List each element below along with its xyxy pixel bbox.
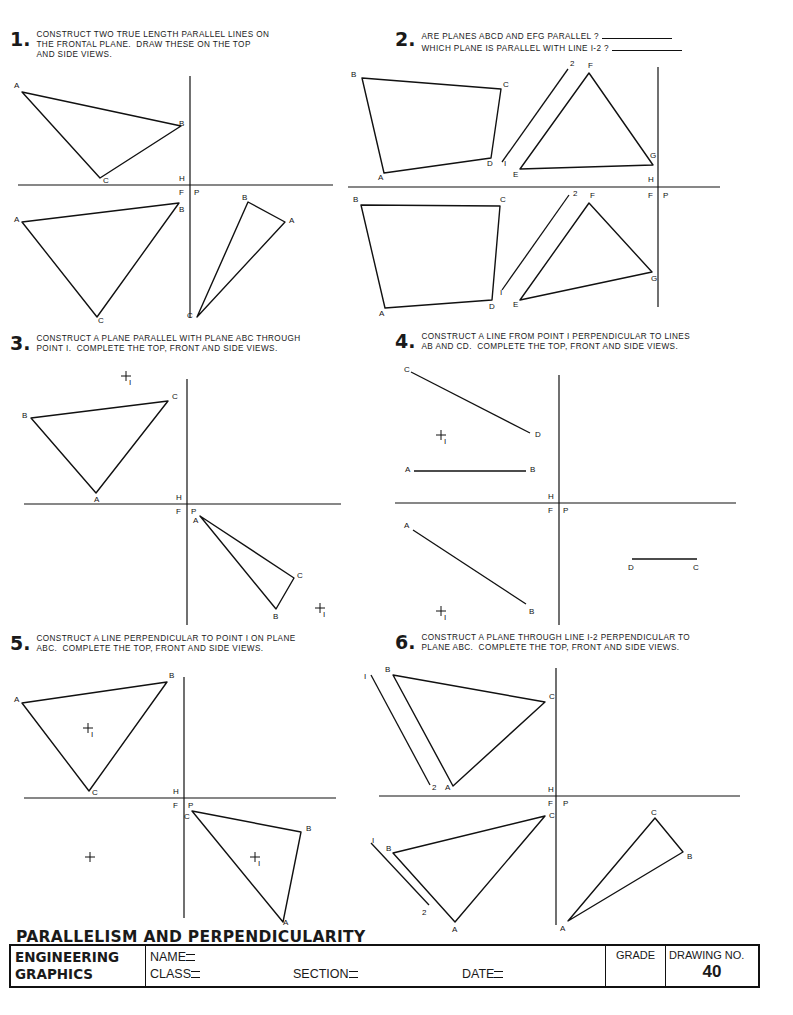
fold-label-f: F xyxy=(176,507,181,516)
point-label: I xyxy=(504,159,506,168)
point-label: I xyxy=(258,859,260,868)
plane-outline xyxy=(361,205,500,308)
point-label: I xyxy=(323,610,325,619)
problem-5-drawing: HFPABCCBAII xyxy=(14,671,336,927)
plane-outline xyxy=(22,92,181,178)
point-label: F xyxy=(648,191,653,200)
drawing-number-box: DRAWING NO. 40 xyxy=(666,946,758,986)
point-label: C xyxy=(98,316,104,325)
point-label: B xyxy=(22,411,27,420)
plane-outline xyxy=(393,675,545,786)
section-field[interactable]: SECTION xyxy=(293,966,358,983)
point-label: A xyxy=(289,216,295,225)
point-label: B xyxy=(529,607,534,616)
student-info: NAME CLASS SECTION DATE xyxy=(146,946,606,986)
plane-outline xyxy=(568,818,683,921)
point-label: P xyxy=(563,799,568,808)
point-label: C xyxy=(549,692,555,701)
point-label: I xyxy=(500,288,502,297)
point-label: C xyxy=(404,365,410,374)
drawing-canvas[interactable]: HFPABCABCBAC BCDAFGEBCDAFGEI2I2HFP HFPBC… xyxy=(0,0,793,1015)
point-label: B xyxy=(273,612,278,621)
point-label: 2 xyxy=(422,908,427,917)
point-label: G xyxy=(650,151,656,160)
fold-label-p: P xyxy=(191,507,196,516)
point-label: A xyxy=(14,81,20,90)
point-label: A xyxy=(378,173,384,182)
point-label: B xyxy=(530,465,535,474)
point-label: A xyxy=(193,516,199,525)
date-field[interactable]: DATE xyxy=(462,966,503,983)
point-label: I xyxy=(444,613,446,622)
point-label: C xyxy=(172,392,178,401)
worksheet: 1. CONSTRUCT TWO TRUE LENGTH PARALLEL LI… xyxy=(0,0,793,1015)
point-label: A xyxy=(445,783,451,792)
point-label: I xyxy=(129,378,131,387)
point-label: A xyxy=(94,495,100,504)
fold-label-h: H xyxy=(173,787,179,796)
point-label: C xyxy=(184,812,190,821)
point-label: A xyxy=(283,918,289,927)
point-label: H xyxy=(648,175,654,184)
problem-3-drawing: HFPBCAACBII xyxy=(22,371,341,625)
drawing-number: 40 xyxy=(669,962,755,982)
fold-label-f: F xyxy=(548,506,553,515)
point-label: A xyxy=(452,925,458,934)
line-segment xyxy=(411,372,530,433)
point-label: G xyxy=(651,274,657,283)
course-name: ENGINEERING GRAPHICS xyxy=(11,946,146,986)
plane-outline xyxy=(200,516,294,609)
plane-outline xyxy=(362,78,501,173)
point-label: C xyxy=(651,808,657,817)
plane-outline xyxy=(22,682,167,791)
plane-outline xyxy=(520,73,653,169)
point-label: D xyxy=(489,302,495,311)
fold-label-h: H xyxy=(179,174,185,183)
problem-4-drawing: HFPCDABABDCII xyxy=(395,365,736,625)
fold-label-h: H xyxy=(548,492,554,501)
point-label: B xyxy=(386,844,391,853)
point-label: C xyxy=(503,80,509,89)
point-label: H xyxy=(548,785,554,794)
point-label: A xyxy=(405,465,411,474)
plane-outline xyxy=(192,811,301,922)
point-label: D xyxy=(628,563,634,572)
line-segment xyxy=(371,843,429,905)
point-label: I xyxy=(364,672,366,681)
fold-label-p: P xyxy=(194,188,199,197)
point-label: B xyxy=(351,70,356,79)
point-label: F xyxy=(590,191,595,200)
point-label: A xyxy=(379,309,385,318)
point-label: I xyxy=(372,836,374,845)
point-label: A xyxy=(560,924,566,933)
point-label: 2 xyxy=(573,189,578,198)
point-label: C xyxy=(549,811,555,820)
point-label: B xyxy=(179,205,184,214)
point-label: E xyxy=(513,300,518,309)
fold-label-f: F xyxy=(179,188,184,197)
line-segment xyxy=(413,530,526,604)
class-field[interactable]: CLASS xyxy=(150,966,200,983)
point-label: E xyxy=(513,170,518,179)
point-label: B xyxy=(242,193,247,202)
problem-2-drawing: BCDAFGEBCDAFGEI2I2HFP xyxy=(348,59,720,318)
point-label: A xyxy=(14,215,20,224)
point-label: P xyxy=(663,191,668,200)
plane-outline xyxy=(520,203,652,300)
fold-label-p: P xyxy=(563,506,568,515)
fold-label-f: F xyxy=(173,801,178,810)
point-label: A xyxy=(404,521,410,530)
point-label: B xyxy=(306,824,311,833)
point-label: C xyxy=(693,563,699,572)
point-label: B xyxy=(169,671,174,680)
plane-outline xyxy=(393,816,545,922)
point-label: C xyxy=(187,311,193,320)
grade-box[interactable]: GRADE xyxy=(606,946,666,986)
point-label: F xyxy=(548,799,553,808)
plane-outline xyxy=(22,203,179,317)
plane-outline xyxy=(197,202,285,317)
point-label: C xyxy=(103,176,109,185)
name-field[interactable]: NAME xyxy=(150,949,195,966)
problem-1-drawing: HFPABCABCBAC xyxy=(14,76,333,325)
point-label: D xyxy=(535,430,541,439)
